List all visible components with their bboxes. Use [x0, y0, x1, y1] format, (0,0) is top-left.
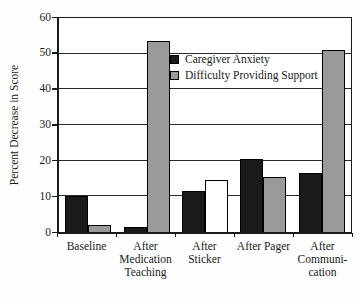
y-tick-mark — [52, 52, 57, 54]
bar-series1-cat2 — [124, 227, 147, 232]
legend-label: Difficulty Providing Support — [185, 69, 318, 81]
x-category-label-2: AfterMedicationTeaching — [116, 240, 175, 279]
x-axis-labels: BaselineAfterMedicationTeachingAfter Sti… — [57, 240, 352, 279]
y-tick-mark — [52, 160, 57, 162]
y-tick-mark — [52, 88, 57, 90]
plot-area — [57, 17, 352, 234]
legend-item-2: Difficulty Providing Support — [170, 69, 318, 81]
x-category-label-5: AfterCommuni-cation — [293, 240, 352, 279]
bar-series2-cat1 — [88, 225, 111, 232]
bar-series1-cat1 — [65, 196, 88, 232]
chart: Percent Decrease in Score Caregiver Anxi… — [0, 0, 361, 300]
x-category-label-3: After Sticker — [175, 240, 234, 279]
x-tick-mark — [293, 233, 295, 237]
y-tick-label: 0 — [27, 226, 51, 239]
y-tick-label: 20 — [27, 154, 51, 167]
bar-series2-cat4 — [263, 177, 286, 232]
x-tick-mark — [175, 233, 177, 237]
x-tick-mark — [116, 233, 118, 237]
bar-group-1 — [59, 18, 117, 232]
y-tick-label: 50 — [27, 46, 51, 59]
bars-container — [59, 18, 351, 232]
bar-group-4 — [234, 18, 292, 232]
y-tick-mark — [52, 17, 57, 19]
x-category-label-1: Baseline — [57, 240, 116, 279]
y-tick-mark — [52, 196, 57, 198]
y-tick-label: 40 — [27, 82, 51, 95]
x-tick-mark — [57, 233, 59, 237]
bar-group-2 — [117, 18, 175, 232]
x-tick-mark — [234, 233, 236, 237]
bar-series1-cat5 — [299, 173, 322, 232]
legend-swatch-icon — [170, 71, 179, 80]
legend: Caregiver AnxietyDifficulty Providing Su… — [170, 53, 318, 81]
y-axis-title: Percent Decrease in Score — [8, 65, 20, 185]
y-tick-label: 60 — [27, 11, 51, 24]
bar-group-3 — [176, 18, 234, 232]
bar-series1-cat3 — [182, 191, 205, 232]
bar-series2-cat3 — [205, 180, 228, 232]
x-category-label-4: After Pager — [234, 240, 293, 279]
x-tick-mark — [352, 233, 354, 237]
legend-swatch-icon — [170, 55, 179, 64]
legend-item-1: Caregiver Anxiety — [170, 53, 318, 65]
bar-series2-cat2 — [147, 41, 170, 232]
y-tick-mark — [52, 124, 57, 126]
y-tick-label: 10 — [27, 190, 51, 203]
bar-group-5 — [293, 18, 351, 232]
legend-label: Caregiver Anxiety — [185, 53, 270, 65]
y-tick-label: 30 — [27, 118, 51, 131]
bar-series2-cat5 — [322, 50, 345, 232]
bar-series1-cat4 — [240, 159, 263, 232]
